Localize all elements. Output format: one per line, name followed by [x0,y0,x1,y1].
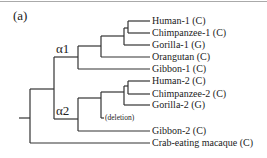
node-alpha2-label: α2 [56,104,69,118]
leaf-human-1: Human-1 (C) [152,15,206,27]
phylogenetic-tree [0,0,267,158]
leaf-orangutan: Orangutan (C) [152,51,210,63]
node-alpha1-label: α1 [56,42,69,56]
deletion-label: (deletion) [105,113,134,122]
leaf-crab-eating-macaque: Crab-eating macaque (C) [152,137,253,149]
leaf-human-2: Human-2 (C) [152,75,206,87]
leaf-gibbon-1: Gibbon-1 (C) [152,63,206,75]
leaf-gorilla-2: Gorilla-2 (G) [152,99,205,111]
leaf-gorilla-1: Gorilla-1 (G) [152,39,205,51]
leaf-chimpanzee-1: Chimpanzee-1 (C) [152,27,226,39]
leaf-gibbon-2: Gibbon-2 (C) [152,125,206,137]
